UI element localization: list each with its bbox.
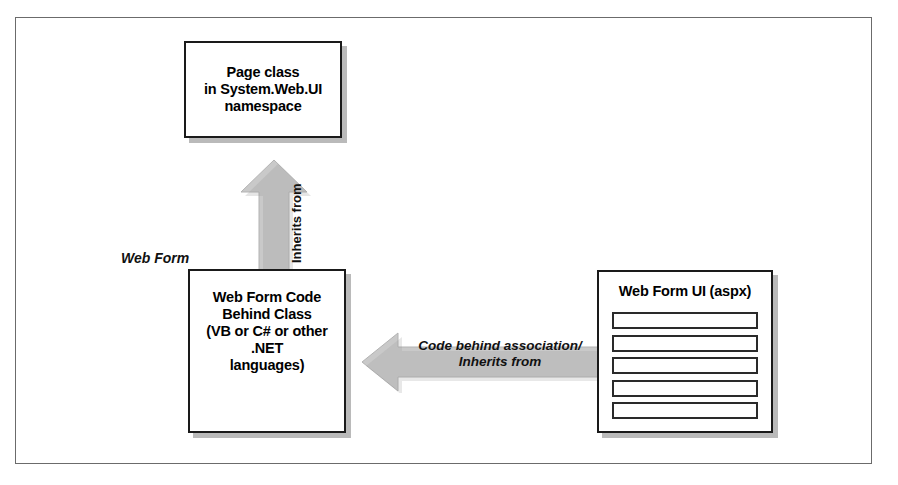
- node-page-class-label: Page class in System.Web.UI namespace: [204, 64, 322, 115]
- web-form-ui-control-row: [612, 357, 758, 374]
- node-page-class: Page class in System.Web.UI namespace: [184, 41, 342, 138]
- arrow-code-behind-association: Code behind association/ Inherits from: [358, 331, 606, 393]
- web-form-ui-control-row: [612, 312, 758, 329]
- arrow-inherits-from-up: Inherits from: [237, 158, 312, 273]
- arrow-code-behind-association-label: Code behind association/ Inherits from: [402, 338, 598, 370]
- node-web-form-ui-label: Web Form UI (aspx): [599, 283, 771, 300]
- web-form-ui-control-row: [612, 335, 758, 352]
- web-form-group-label: Web Form: [121, 250, 189, 266]
- figure-frame: Page class in System.Web.UI namespace In…: [15, 17, 872, 464]
- node-code-behind-class-label: Web Form Code Behind Class (VB or C# or …: [190, 289, 344, 374]
- node-code-behind-class: Web Form Code Behind Class (VB or C# or …: [188, 269, 346, 433]
- web-form-ui-control-list: [612, 312, 758, 419]
- web-form-ui-control-row: [612, 402, 758, 419]
- web-form-ui-control-row: [612, 380, 758, 397]
- node-web-form-ui: Web Form UI (aspx): [597, 270, 773, 433]
- arrow-inherits-from-up-label: Inherits from: [266, 154, 326, 269]
